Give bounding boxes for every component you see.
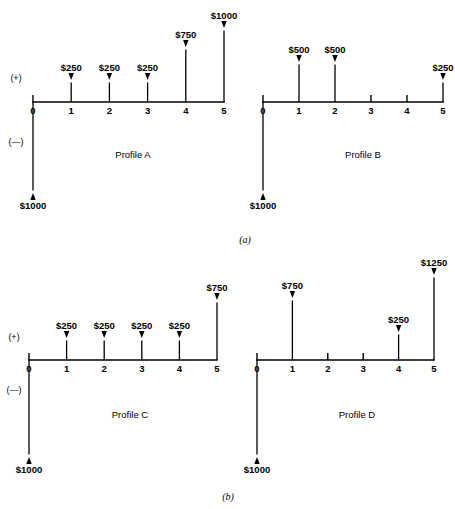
axis-tick-label-3: 3 [139,363,144,374]
cash-flow-amount-t5: $1000 [211,10,237,21]
cash-flow-arrow-t3-head [139,331,144,338]
axis-tick-label-3: 3 [145,105,150,116]
positive-sign-label: (+) [8,332,19,342]
negative-sign-label: (—) [7,385,22,395]
cash-flow-arrow-t2-head [332,55,337,62]
cash-flow-amount-t3: $250 [137,62,158,73]
axis-tick-label-5: 5 [221,105,227,116]
axis-tick-label-5: 5 [440,105,446,116]
axis-tick-label-4: 4 [404,105,410,116]
cash-flow-amount-t2: $250 [94,320,115,331]
cash-flow-arrow-t1-head [64,331,69,338]
cash-flow-chart-profile-d: 012345$1000$750$250$1250Profile D [244,257,447,475]
cash-flow-amount-t5: $250 [432,62,453,73]
cash-flow-arrow-t2-head [102,331,107,338]
axis-tick-label-4: 4 [396,363,402,374]
cash-flow-amount-t3: $250 [131,320,152,331]
axis-tick-label-5: 5 [431,363,437,374]
axis-tick-label-3: 3 [361,363,366,374]
cash-flow-amount-t2: $500 [324,44,345,55]
panel-caption-a: (a) [239,234,251,246]
axis-tick-label-3: 3 [368,105,373,116]
cash-flow-arrow-t0-head [30,193,35,200]
profile-caption-profile-a: Profile A [115,149,151,160]
profile-caption-profile-d: Profile D [339,409,376,420]
cash-flow-arrow-t5-head [214,293,219,300]
profile-caption-profile-c: Profile C [112,409,149,420]
cash-flow-arrow-t0-head [254,457,259,464]
cash-flow-arrow-t5-head [431,268,436,275]
axis-tick-label-2: 2 [107,105,112,116]
profile-caption-profile-b: Profile B [345,149,381,160]
cash-flow-arrow-t5-head [221,21,226,28]
cash-flow-amount-t4: $250 [169,320,190,331]
axis-tick-label-2: 2 [325,363,330,374]
cash-flow-amount-t0: $1000 [244,464,270,475]
cash-flow-amount-t5: $1250 [421,257,447,268]
cash-flow-arrow-t2-head [107,73,112,80]
axis-tick-label-1: 1 [290,363,296,374]
cash-flow-arrow-t4-head [183,40,188,47]
cash-flow-arrow-t1-head [69,73,74,80]
positive-sign-label: (+) [10,73,21,83]
axis-tick-label-1: 1 [69,105,75,116]
cash-flow-chart-profile-c: 012345$1000$250$250$250$250$750(+)(—)Pro… [7,282,228,475]
cash-flow-amount-t1: $250 [56,320,77,331]
cash-flow-amount-t2: $250 [99,62,120,73]
cash-flow-arrow-t4-head [396,325,401,332]
axis-tick-label-2: 2 [102,363,107,374]
cash-flow-arrow-t0-head [260,193,265,200]
cash-flow-arrow-t3-head [145,73,150,80]
cash-flow-figure: 012345$1000$250$250$250$750$1000(+)(—)Pr… [0,0,455,509]
axis-tick-label-4: 4 [177,363,183,374]
cash-flow-arrow-t4-head [177,331,182,338]
cash-flow-amount-t0: $1000 [16,464,42,475]
cash-flow-amount-t0: $1000 [20,200,46,211]
cash-flow-arrow-t5-head [440,73,445,80]
negative-sign-label: (—) [9,137,24,147]
cash-flow-chart-profile-a: 012345$1000$250$250$250$750$1000(+)(—)Pr… [9,10,238,211]
cash-flow-amount-t4: $750 [175,29,196,40]
cash-flow-diagram-canvas: 012345$1000$250$250$250$750$1000(+)(—)Pr… [0,0,455,509]
cash-flow-amount-t0: $1000 [250,200,276,211]
axis-tick-label-5: 5 [214,363,220,374]
cash-flow-chart-profile-b: 012345$1000$500$500$250Profile B [250,44,454,211]
axis-tick-label-4: 4 [183,105,189,116]
cash-flow-arrow-t0-head [26,457,31,464]
cash-flow-amount-t1: $750 [282,280,303,291]
cash-flow-amount-t5: $750 [206,282,227,293]
panel-caption-b: (b) [222,491,234,503]
axis-tick-label-1: 1 [64,363,70,374]
cash-flow-arrow-t1-head [290,291,295,298]
cash-flow-amount-t1: $250 [61,62,82,73]
cash-flow-amount-t1: $500 [288,44,309,55]
axis-tick-label-1: 1 [296,105,302,116]
cash-flow-amount-t4: $250 [388,314,409,325]
axis-tick-label-2: 2 [332,105,337,116]
cash-flow-arrow-t1-head [296,55,301,62]
